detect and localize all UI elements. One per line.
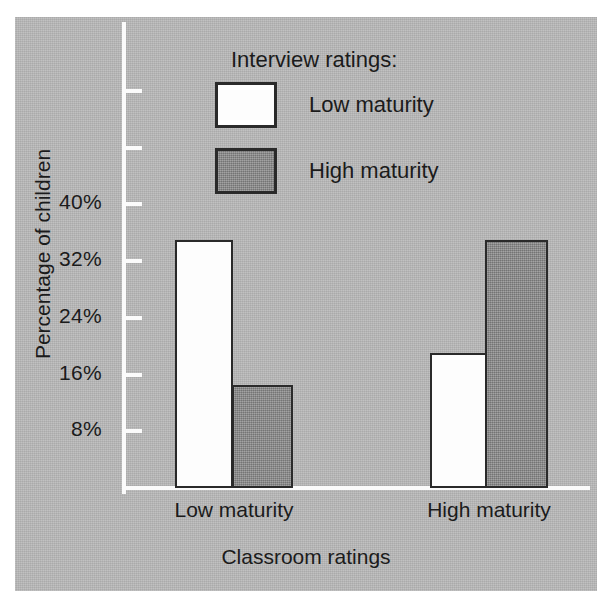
x-axis-category-label: High maturity	[427, 498, 551, 522]
y-axis-tick-label: 8%	[71, 417, 102, 441]
legend-entry-low-maturity: Low maturity	[215, 82, 545, 128]
y-axis-tick	[126, 316, 142, 320]
bar-low-maturity-high-maturity	[430, 353, 488, 488]
y-axis-tick	[126, 373, 142, 377]
y-axis-tick-label: 24%	[59, 304, 102, 328]
gray-square-swatch-icon	[215, 148, 277, 194]
chart-figure: Percentage of children 8%16%24%32%40% Lo…	[15, 17, 597, 591]
x-axis-title: Classroom ratings	[15, 545, 597, 569]
bar-high-maturity-low-maturity	[232, 385, 293, 488]
y-axis-tick	[126, 89, 142, 93]
y-axis-tick	[126, 202, 142, 206]
y-axis-tick-label: 32%	[59, 247, 102, 271]
bar-low-maturity-low-maturity	[175, 240, 233, 488]
white-square-swatch-icon	[215, 82, 277, 128]
legend-label-low-maturity: Low maturity	[309, 92, 434, 118]
chart-legend: Interview ratings: Low maturity High mat…	[215, 47, 545, 214]
legend-title: Interview ratings:	[231, 47, 545, 73]
y-axis-tick	[126, 259, 142, 263]
y-axis-title: Percentage of children	[31, 94, 55, 414]
y-axis-tick-label: 40%	[59, 190, 102, 214]
y-axis-tick-label: 16%	[59, 361, 102, 385]
x-axis-category-label: Low maturity	[174, 498, 293, 522]
legend-entry-high-maturity: High maturity	[215, 148, 545, 194]
y-axis-tick	[126, 429, 142, 433]
bar-high-maturity-high-maturity	[485, 240, 548, 488]
legend-label-high-maturity: High maturity	[309, 158, 439, 184]
y-axis-tick	[126, 146, 142, 150]
